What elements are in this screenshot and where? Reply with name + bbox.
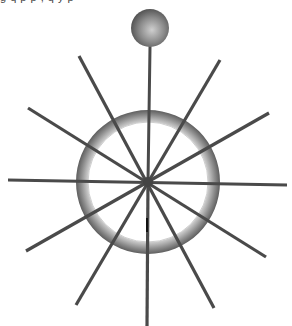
- spoked-wheel-diagram: [0, 0, 292, 326]
- spokes: [8, 56, 287, 326]
- spoke-6: [147, 182, 148, 326]
- center-hub: [143, 177, 153, 187]
- top-sphere: [131, 9, 169, 47]
- vertical-rod: [148, 47, 150, 182]
